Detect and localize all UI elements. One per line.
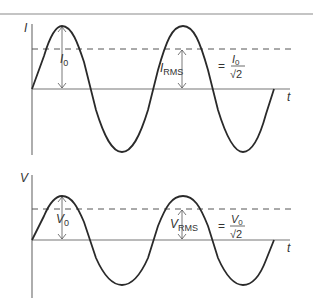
peak-label: I0 bbox=[60, 52, 68, 68]
y-axis-label: V bbox=[20, 171, 29, 185]
y-axis-label: I bbox=[24, 21, 28, 35]
svg-text:=: = bbox=[218, 219, 225, 233]
x-axis-label: t bbox=[287, 90, 291, 104]
svg-text:I0: I0 bbox=[232, 53, 240, 67]
ac-rms-diagram: I t I0 IRMS = I0 √2 V t V0 VRMS = V0 √2 bbox=[0, 0, 313, 301]
x-axis-label: t bbox=[287, 241, 291, 255]
current-graph: I t I0 IRMS = I0 √2 bbox=[24, 21, 295, 155]
svg-text:V0: V0 bbox=[231, 213, 243, 227]
svg-text:√2: √2 bbox=[230, 68, 242, 80]
peak-label: V0 bbox=[56, 212, 69, 228]
rms-formula: = I0 √2 bbox=[218, 53, 245, 80]
rms-label: IRMS bbox=[160, 61, 183, 77]
svg-text:√2: √2 bbox=[230, 228, 242, 240]
rms-formula: = V0 √2 bbox=[218, 213, 245, 240]
rms-label: VRMS bbox=[170, 217, 198, 233]
voltage-graph: V t V0 VRMS = V0 √2 bbox=[20, 171, 295, 298]
svg-text:=: = bbox=[218, 59, 225, 73]
